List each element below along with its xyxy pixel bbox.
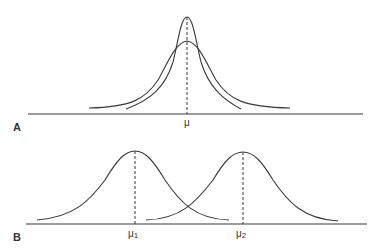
panel-a-mean-label: μ — [184, 117, 190, 128]
normal-distributions-figure: A μ B μ1 μ2 — [0, 0, 382, 251]
panel-b-mean1-label: μ1 — [128, 228, 139, 240]
panel-b-curve-1 — [37, 151, 229, 220]
panel-a-narrow-curve — [126, 17, 241, 109]
figure-canvas: A μ B μ1 μ2 — [0, 0, 382, 251]
panel-b: B μ1 μ2 — [13, 151, 367, 243]
panel-b-mean2-label: μ2 — [236, 228, 247, 240]
panel-a-label: A — [13, 121, 21, 133]
panel-b-curve-2 — [146, 152, 338, 221]
panel-b-label: B — [13, 231, 21, 243]
panel-a-wide-curve — [89, 41, 290, 108]
panel-a: A μ — [13, 17, 363, 133]
